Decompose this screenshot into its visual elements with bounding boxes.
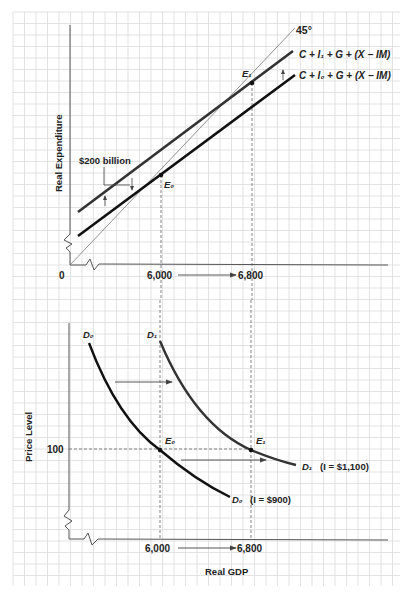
top-x-tick-6800: 6,800 [238, 270, 263, 281]
shift-amount-label: $200 billion [79, 155, 131, 166]
top-e1-label: E₁ [242, 68, 252, 79]
bottom-x-tick-6800: 6,800 [237, 543, 262, 554]
price-tick-100: 100 [47, 444, 64, 455]
forty-five-label: 45° [296, 24, 312, 36]
bottom-x-axis-label: Real GDP [205, 566, 249, 577]
top-x-tick-6000: 6,000 [147, 270, 172, 281]
d1-end-label: D₁ [302, 461, 312, 472]
line-lower-label: C + I₀ + G + (X − IM) [299, 70, 391, 81]
d0-end-label: D₀ [232, 494, 243, 505]
top-e0-label: E₀ [164, 179, 174, 190]
top-x-axis [70, 259, 388, 270]
grid-paper [13, 12, 400, 586]
d0-investment-note: (I = $900) [250, 494, 291, 505]
bottom-e1-label: E₁ [256, 435, 266, 446]
d1-top-label: D₁ [147, 329, 157, 340]
top-y-axis-label: Real Expenditure [53, 114, 64, 192]
top-point-e0 [159, 173, 164, 178]
bottom-y-axis-label: Price Level [23, 412, 34, 462]
top-point-e1 [250, 81, 255, 86]
bottom-point-e0 [158, 448, 163, 453]
d1-investment-note: (I = $1,100) [320, 461, 369, 472]
bottom-x-tick-6000: 6,000 [145, 543, 170, 554]
d0-top-label: D₀ [83, 329, 94, 340]
bottom-chart: Price Level 100 6,000 6,800 Real GDP D₀ … [23, 300, 388, 577]
diagram-canvas: Real Expenditure 0 6,000 6,800 45° C + I… [0, 0, 408, 598]
forty-five-degree-line [70, 28, 295, 265]
bottom-point-e1 [249, 448, 254, 453]
bottom-e0-label: E₀ [165, 435, 175, 446]
top-chart: Real Expenditure 0 6,000 6,800 45° C + I… [53, 24, 391, 300]
line-upper-label: C + I₁ + G + (X − IM) [299, 49, 391, 60]
origin-label: 0 [59, 270, 65, 281]
